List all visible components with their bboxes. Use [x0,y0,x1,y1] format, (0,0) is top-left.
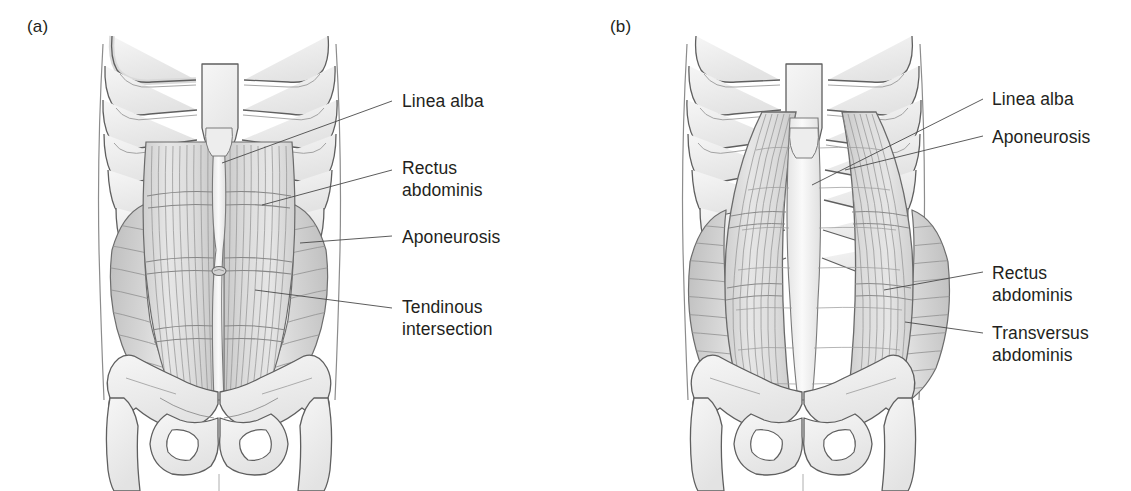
anatomy-figure: (a) (b) Linea alba Rectusabdominis Apone… [0,0,1131,491]
obturator-foramen-left [167,430,199,461]
obturator-foramen-right [240,430,272,461]
obturator-foramen-left [751,430,783,461]
obturator-foramen-right [824,430,856,461]
linea-alba-b [787,118,821,400]
panel-a-illustration [99,36,393,491]
anatomy-illustration [0,0,1131,491]
umbilicus-a [212,267,226,276]
panel-b-illustration [680,36,983,491]
